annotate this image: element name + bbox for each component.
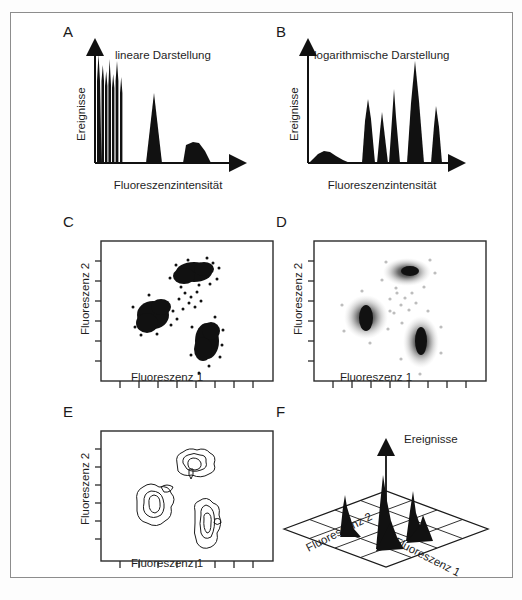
panel-letter-d: D <box>276 213 287 230</box>
panel-f-plot <box>264 417 504 577</box>
panel-letter-c: C <box>63 213 74 230</box>
panel-d-cluster-left <box>340 289 391 344</box>
panel-a-plot <box>87 41 247 171</box>
panel-e-contour-upper <box>177 449 215 479</box>
panel-b-peak-1 <box>362 99 375 163</box>
panel-c-sparse-points <box>178 291 203 311</box>
panel-d-cluster-upper <box>380 258 436 290</box>
panel-d-sparse-points <box>388 291 417 314</box>
panel-d-cluster-lower <box>399 309 442 375</box>
panel-b-peak-4 <box>407 61 424 163</box>
panel-d-xticks <box>333 381 466 388</box>
panel-b-hump <box>309 151 350 163</box>
panel-a: A lineare Darstellung Ereignisse Fluores… <box>11 13 261 209</box>
panel-d-plot <box>304 235 494 390</box>
panel-c-cluster-left <box>132 294 179 337</box>
panel-f-peak-center <box>376 475 404 551</box>
panel-b-ylabel: Ereignisse <box>288 87 300 141</box>
panel-a-ylabel: Ereignisse <box>75 87 87 141</box>
panel-b-peak-3 <box>389 89 400 163</box>
panel-a-peak-middle <box>146 93 162 163</box>
panel-e-contour-lower <box>194 498 221 548</box>
panel-f: F Ereignisse Fluoreszenz 2 Fluoreszenz 1 <box>256 395 514 580</box>
panel-c-frame <box>101 241 273 381</box>
panel-b-xlabel: Fluoreszenzintensität <box>302 179 462 191</box>
panel-b-peak-2 <box>377 112 388 163</box>
panel-e-xticks <box>120 561 253 568</box>
panel-c-yticks <box>95 261 101 361</box>
panel-letter-a: A <box>63 23 73 40</box>
panel-b: B logarithmische Darstellung Ereignisse … <box>256 13 514 209</box>
panel-d: D Fluoreszenz 2 Fluoreszenz 1 <box>256 205 514 397</box>
panel-b-peak-5 <box>431 106 442 163</box>
panel-e-yticks <box>95 449 101 539</box>
panel-letter-b: B <box>276 23 286 40</box>
panel-c-cluster-upper <box>169 257 221 289</box>
panel-e-plot <box>91 425 281 575</box>
panel-c-xticks <box>120 381 253 388</box>
panel-e: E Fluoreszenz 2 Fluoreszenz 1 <box>11 395 261 580</box>
panel-c-plot <box>91 235 281 390</box>
panel-e-contour-left <box>137 484 174 526</box>
panel-c: C Fluoreszenz 2 Fluoreszenz 1 <box>11 205 261 397</box>
panel-a-xlabel: Fluoreszenzintensität <box>93 179 243 191</box>
panel-d-ylabel: Fluoreszenz 2 <box>292 263 304 335</box>
panel-letter-e: E <box>63 403 73 420</box>
panel-f-peak-right <box>406 491 433 543</box>
panel-e-ylabel: Fluoreszenz 2 <box>79 453 91 525</box>
panel-c-ylabel: Fluoreszenz 2 <box>79 263 91 335</box>
figure-frame: A lineare Darstellung Ereignisse Fluores… <box>10 12 513 578</box>
panel-a-histogram-trace <box>97 54 124 163</box>
panel-e-frame <box>101 431 273 561</box>
panel-c-cluster-lower <box>190 316 225 375</box>
panel-b-plot <box>300 41 470 171</box>
panel-a-peak-right <box>183 142 211 163</box>
panel-d-yticks <box>308 261 314 361</box>
